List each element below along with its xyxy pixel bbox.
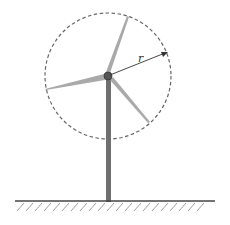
tower	[106, 76, 111, 202]
hub	[104, 72, 112, 80]
blade-right	[110, 77, 150, 123]
wind-turbine-diagram: r	[0, 0, 230, 225]
radius-label: r	[138, 52, 144, 65]
blade-up	[106, 16, 129, 73]
ground-hatching	[17, 203, 204, 211]
blade-left	[45, 74, 105, 90]
